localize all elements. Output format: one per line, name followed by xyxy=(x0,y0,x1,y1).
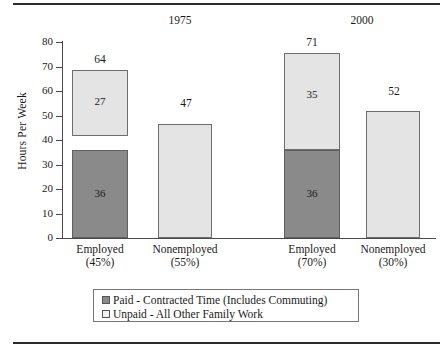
chart-legend: Paid - Contracted Time (Includes Commuti… xyxy=(93,289,359,322)
figure: Hours Per Week 0 10 20 30 40 50 60 70 80… xyxy=(0,0,448,353)
y-tick-10 xyxy=(56,214,62,215)
y-tick-label-80: 80 xyxy=(29,36,53,47)
bar-total-label-2: 47 xyxy=(156,97,216,109)
legend-item-paid[interactable]: Paid - Contracted Time (Includes Commuti… xyxy=(102,293,358,307)
bar-1-paid-label: 36 xyxy=(73,187,127,199)
legend-label-unpaid: Unpaid - All Other Family Work xyxy=(113,308,263,320)
x-category-pct-4: (30%) xyxy=(338,256,448,269)
chart-plot-area: Hours Per Week 0 10 20 30 40 50 60 70 80… xyxy=(0,0,448,353)
y-tick-0 xyxy=(56,238,62,239)
bar-total-label-4: 52 xyxy=(364,85,424,97)
bar-total-label-1: 64 xyxy=(70,53,130,65)
group-title-1975: 1975 xyxy=(140,14,220,26)
y-tick-label-0: 0 xyxy=(29,232,53,243)
group-title-2000: 2000 xyxy=(322,14,402,26)
y-tick-label-60: 60 xyxy=(29,85,53,96)
bar-3-paid-segment[interactable]: 36 xyxy=(284,150,340,238)
x-category-name-4: Nonemployed xyxy=(360,243,425,255)
legend-item-unpaid[interactable]: Unpaid - All Other Family Work xyxy=(102,307,358,321)
y-tick-80 xyxy=(56,42,62,43)
y-tick-40 xyxy=(56,140,62,141)
x-category-label-4: Nonemployed (30%) xyxy=(338,243,448,269)
y-tick-label-20: 20 xyxy=(29,183,53,194)
y-axis-title: Hours Per Week xyxy=(16,66,28,196)
y-tick-label-70: 70 xyxy=(29,61,53,72)
bar-3-unpaid-segment[interactable]: 35 xyxy=(284,53,340,150)
bar-3-paid-label: 36 xyxy=(285,187,339,199)
y-tick-70 xyxy=(56,67,62,68)
y-axis-line xyxy=(62,41,63,239)
y-tick-label-40: 40 xyxy=(29,134,53,145)
x-category-name-3: Employed xyxy=(288,243,335,255)
y-tick-60 xyxy=(56,91,62,92)
y-tick-label-10: 10 xyxy=(29,208,53,219)
bar-2-unpaid-segment[interactable] xyxy=(158,124,212,238)
x-category-label-2: Nonemployed (55%) xyxy=(130,243,240,269)
y-tick-30 xyxy=(56,165,62,166)
y-tick-50 xyxy=(56,116,62,117)
legend-label-paid: Paid - Contracted Time (Includes Commuti… xyxy=(113,294,327,306)
bar-1-unpaid-segment[interactable]: 27 xyxy=(72,70,128,136)
bar-3-unpaid-label: 35 xyxy=(285,88,339,100)
legend-swatch-unpaid-icon xyxy=(102,310,110,318)
bar-4-unpaid-segment[interactable] xyxy=(366,111,420,238)
x-axis-line xyxy=(62,238,436,239)
y-tick-label-50: 50 xyxy=(29,110,53,121)
bar-total-label-3: 71 xyxy=(282,36,342,48)
x-category-pct-2: (55%) xyxy=(130,256,240,269)
legend-swatch-paid-icon xyxy=(102,296,110,304)
y-tick-label-30: 30 xyxy=(29,159,53,170)
x-category-name-2: Nonemployed xyxy=(152,243,217,255)
y-tick-20 xyxy=(56,189,62,190)
x-category-name-1: Employed xyxy=(76,243,123,255)
bar-1-unpaid-label: 27 xyxy=(73,95,127,107)
bar-1-paid-segment[interactable]: 36 xyxy=(72,150,128,238)
